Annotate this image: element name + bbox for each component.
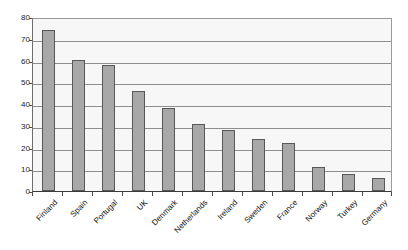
bar-finland (42, 30, 55, 191)
y-tick-label: 80 (4, 14, 30, 22)
y-tick-label: 40 (4, 101, 30, 109)
bar-denmark (162, 108, 175, 191)
y-tick-label: 10 (4, 166, 30, 174)
x-tick-mark (92, 192, 93, 196)
bar-uk (132, 91, 145, 191)
y-tick-label: 70 (4, 36, 30, 44)
y-tick-label: 30 (4, 123, 30, 131)
bars-layer (33, 19, 391, 191)
bar-france (282, 143, 295, 191)
y-tick-label: 60 (4, 58, 30, 66)
bar-portugal (102, 65, 115, 191)
x-tick-mark (272, 192, 273, 196)
x-tick-mark (391, 192, 392, 196)
bar-spain (72, 60, 85, 191)
x-tick-mark (122, 192, 123, 196)
x-tick-mark (362, 192, 363, 196)
bar-ireland (222, 130, 235, 191)
x-tick-mark (332, 192, 333, 196)
bar-chart: 01020304050607080 FinlandSpainPortugalUK… (0, 0, 408, 250)
y-tick-label: 0 (4, 188, 30, 196)
x-tick-mark (32, 192, 33, 196)
bar-germany (372, 178, 385, 191)
bar-netherlands (192, 124, 205, 191)
bar-turkey (342, 174, 355, 191)
x-tick-mark (182, 192, 183, 196)
x-tick-mark (242, 192, 243, 196)
plot-area (32, 18, 392, 192)
y-axis: 01020304050607080 (0, 18, 30, 192)
bar-sweden (252, 139, 265, 191)
x-tick-mark (152, 192, 153, 196)
x-tick-mark (212, 192, 213, 196)
x-tick-mark (62, 192, 63, 196)
y-tick-label: 50 (4, 79, 30, 87)
x-axis: FinlandSpainPortugalUKDenmarkNetherlands… (32, 192, 392, 250)
y-tick-label: 20 (4, 145, 30, 153)
x-tick-mark (302, 192, 303, 196)
bar-norway (312, 167, 325, 191)
